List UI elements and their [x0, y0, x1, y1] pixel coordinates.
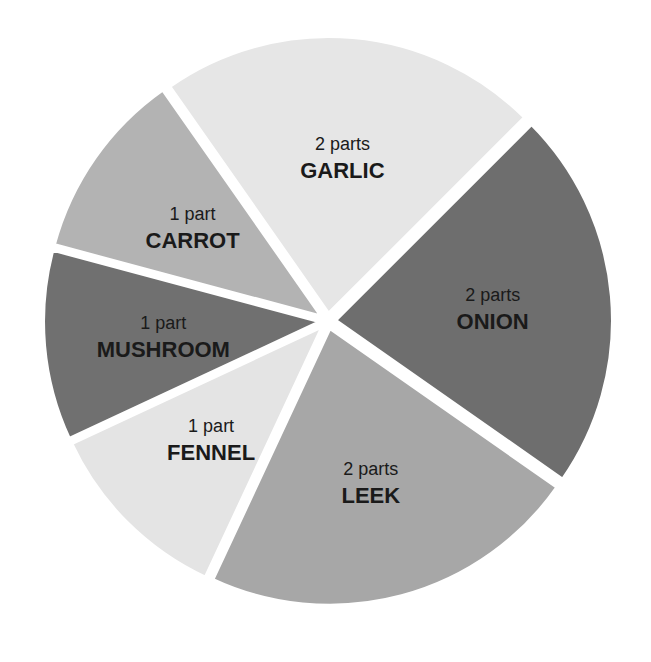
slice-amount-label: 2 parts — [343, 459, 398, 479]
slice-name-label: FENNEL — [167, 440, 255, 465]
slice-name-label: LEEK — [341, 483, 400, 508]
slice-name-label: MUSHROOM — [97, 337, 230, 362]
slice-name-label: CARROT — [146, 228, 241, 253]
slice-name-label: ONION — [457, 309, 529, 334]
slice-amount-label: 2 parts — [465, 285, 520, 305]
slice-amount-label: 2 parts — [315, 134, 370, 154]
slice-amount-label: 1 part — [140, 313, 186, 333]
slice-name-label: GARLIC — [300, 158, 384, 183]
slice-amount-label: 1 part — [188, 416, 234, 436]
slice-amount-label: 1 part — [170, 204, 216, 224]
pie-chart: 2 partsGARLIC2 partsONION2 partsLEEK1 pa… — [0, 0, 651, 662]
